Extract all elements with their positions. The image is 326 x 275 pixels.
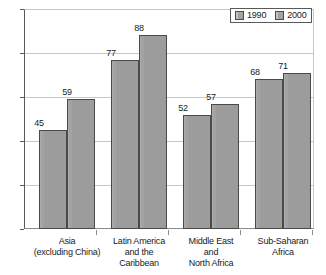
legend-item-2000[interactable]: 2000 (275, 11, 306, 20)
bar-value-label: 59 (47, 88, 87, 97)
x-axis-label-line: Sub-Saharan (240, 236, 326, 247)
bar-group (111, 9, 167, 229)
bar-chart: 100 80 60 40 20 0 45 59 77 88 52 57 68 (0, 0, 326, 275)
category-separator (312, 230, 313, 235)
legend-item-1990[interactable]: 1990 (235, 11, 266, 20)
legend-label: 1990 (247, 11, 266, 20)
category-separator (168, 230, 169, 235)
bar-value-label: 52 (163, 104, 203, 113)
bar-value-label: 71 (263, 62, 303, 71)
x-axis-label-line: North Africa (168, 258, 254, 269)
bar-sub-saharan-2000[interactable] (283, 73, 311, 229)
bar-value-label: 88 (119, 24, 159, 33)
bar-asia-1990[interactable] (39, 130, 67, 229)
legend-label: 2000 (287, 11, 306, 20)
bar-sub-saharan-1990[interactable] (255, 79, 283, 229)
bar-value-label: 45 (19, 119, 59, 128)
bar-asia-2000[interactable] (67, 99, 95, 229)
y-axis-tick-mark (20, 229, 24, 230)
bar-value-label: 77 (91, 49, 131, 58)
bar-group (255, 9, 311, 229)
bar-latin-america-2000[interactable] (139, 35, 167, 229)
category-separator (96, 230, 97, 235)
bar-middle-east-1990[interactable] (183, 115, 211, 229)
legend-swatch-icon (235, 11, 244, 20)
bar-value-label: 57 (191, 93, 231, 102)
bar-latin-america-1990[interactable] (111, 60, 139, 229)
legend: 1990 2000 (230, 8, 312, 23)
bar-middle-east-2000[interactable] (211, 104, 239, 229)
bars-layer (24, 9, 314, 229)
legend-swatch-icon (275, 11, 284, 20)
x-axis-label-sub-saharan: Sub-Saharan Africa (240, 236, 326, 258)
category-separator (240, 230, 241, 235)
bar-group (183, 9, 239, 229)
x-axis-label-line: Africa (240, 247, 326, 258)
